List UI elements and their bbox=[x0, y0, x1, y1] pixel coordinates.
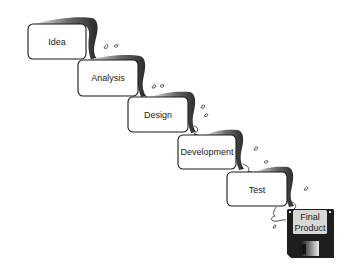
final-label-line1: Final bbox=[300, 212, 320, 222]
stage-label: Idea bbox=[48, 37, 66, 47]
water-drop bbox=[114, 45, 118, 48]
water-drop bbox=[264, 161, 268, 164]
waterfall-diagram: Idea Analysis Design Development Test bbox=[0, 0, 356, 271]
stage-label: Analysis bbox=[91, 73, 125, 83]
write-protect-notch bbox=[329, 211, 331, 213]
water-drop bbox=[160, 85, 164, 88]
final-product: Final Product bbox=[287, 209, 334, 258]
stage-label: Development bbox=[180, 147, 234, 157]
final-label-line2: Product bbox=[294, 223, 326, 233]
water-splash bbox=[271, 207, 286, 221]
disk-shutter-slot bbox=[302, 244, 306, 254]
water-drop bbox=[254, 147, 258, 150]
stage-label: Design bbox=[144, 110, 172, 120]
stage-design: Design bbox=[128, 92, 212, 141]
water-drop bbox=[201, 105, 205, 108]
water-drop bbox=[304, 187, 308, 190]
water-drop bbox=[273, 225, 276, 228]
stage-label: Test bbox=[249, 185, 266, 195]
write-protect-notch bbox=[289, 211, 291, 213]
water-drop bbox=[104, 44, 108, 48]
water-drop bbox=[152, 85, 156, 88]
water-drop bbox=[204, 114, 208, 117]
stage-development: Development bbox=[178, 130, 268, 177]
